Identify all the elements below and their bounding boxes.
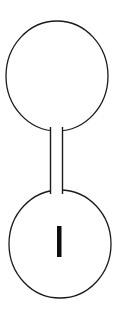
upper-circle [6, 21, 108, 131]
vertical-tick-mark-icon [57, 226, 62, 257]
neck-body [51, 128, 63, 193]
figure-svg [0, 0, 125, 314]
figure-canvas [0, 0, 125, 314]
